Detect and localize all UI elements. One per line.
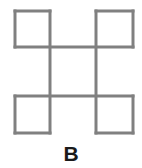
figure-panel: B <box>0 0 142 168</box>
lattice-diagram <box>0 0 142 140</box>
figure-caption-label: B <box>0 142 142 166</box>
diagram-background <box>0 0 142 140</box>
